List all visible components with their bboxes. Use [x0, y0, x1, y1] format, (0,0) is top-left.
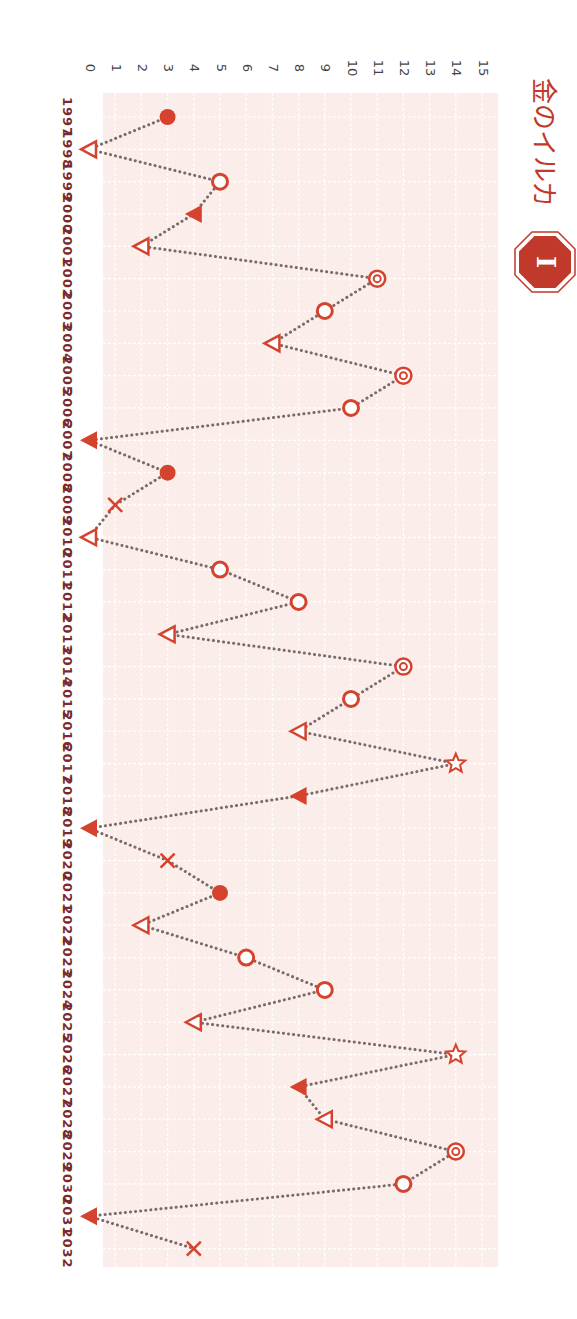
marker-open-circle-icon: [213, 562, 228, 577]
value-tick-label: 12: [397, 60, 412, 77]
value-tick-label: 4: [187, 64, 202, 72]
marker-open-circle-icon: [213, 174, 228, 189]
value-tick-label: 8: [292, 64, 307, 72]
marker-filled-circle-icon: [160, 109, 176, 125]
value-tick-label: 11: [371, 60, 386, 77]
marker-filled-circle-icon: [212, 885, 228, 901]
value-tick-label: 0: [83, 64, 98, 72]
fortune-chart: 0123456789101112131415 19971998199920002…: [0, 0, 577, 1319]
marker-double-circle-icon: [395, 659, 411, 675]
year-label: 2032: [60, 1228, 75, 1268]
value-tick-label: 7: [266, 64, 281, 72]
value-tick-label: 6: [240, 64, 255, 72]
value-tick-label: 9: [318, 64, 333, 72]
value-axis-ticks: 0123456789101112131415: [83, 60, 491, 77]
value-tick-label: 10: [345, 60, 360, 77]
value-tick-label: 14: [449, 60, 464, 77]
badge: I: [515, 232, 575, 292]
marker-double-circle-icon: [448, 1144, 464, 1160]
marker-open-triangle-icon: [81, 529, 96, 545]
chart-title-text: 金のイルカ: [529, 78, 559, 207]
marker-open-circle-icon: [317, 982, 332, 997]
value-tick-label: 1: [109, 64, 124, 72]
value-tick-label: 5: [214, 64, 229, 72]
value-tick-label: 3: [161, 64, 176, 72]
badge-label: I: [531, 256, 561, 268]
marker-open-circle-icon: [291, 594, 306, 609]
marker-open-circle-icon: [344, 400, 359, 415]
marker-double-circle-icon: [395, 368, 411, 384]
marker-open-circle-icon: [317, 303, 332, 318]
year-axis-labels: 1997199819992000200120022003200420052006…: [60, 97, 75, 1269]
value-tick-label: 2: [135, 64, 150, 72]
value-tick-label: 15: [476, 60, 491, 77]
marker-double-circle-icon: [369, 271, 385, 287]
marker-open-circle-icon: [396, 1176, 411, 1191]
value-tick-label: 13: [423, 60, 438, 77]
marker-filled-circle-icon: [160, 465, 176, 481]
chart-title: 金のイルカ: [529, 78, 559, 207]
marker-open-circle-icon: [344, 691, 359, 706]
marker-open-circle-icon: [239, 950, 254, 965]
